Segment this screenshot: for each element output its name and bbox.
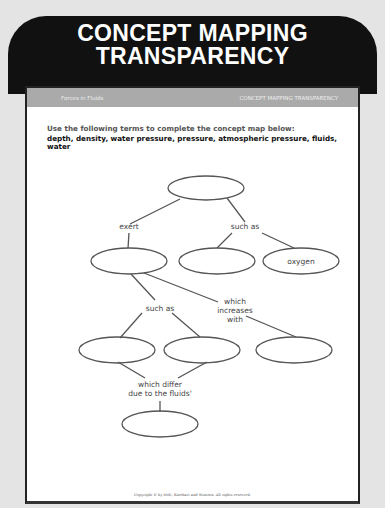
link-increases-with: which increases with (210, 297, 260, 324)
link-exert: exert (114, 222, 144, 231)
link-such-as-2: such as (140, 304, 180, 313)
concept-map-diagram (0, 0, 385, 508)
link-differ: which differ due to the fluids' (120, 380, 200, 398)
node-low-center (164, 337, 240, 363)
node-oxygen-label: oxygen (281, 257, 321, 266)
node-center-mid (179, 248, 255, 274)
node-left-mid (91, 248, 167, 274)
link-such-as-1: such as (225, 222, 265, 231)
node-low-left (79, 337, 155, 363)
node-low-right (256, 337, 332, 363)
node-bottom (122, 411, 198, 437)
node-top (168, 176, 244, 200)
